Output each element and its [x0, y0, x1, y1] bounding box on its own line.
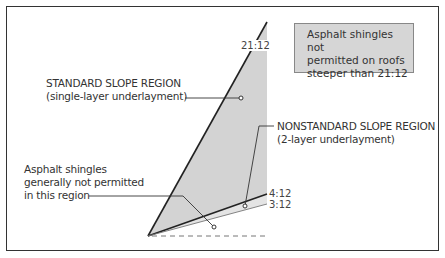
slope-label-21-12: 21:12 [240, 40, 271, 51]
low-region-line-3: in this region [24, 189, 144, 202]
low-region-label: Asphalt shingles generally not permitted… [24, 163, 144, 202]
low-region-line-1: Asphalt shingles [24, 163, 144, 176]
nonstandard-region-title: NONSTANDARD SLOPE REGION [277, 120, 435, 133]
low-region-line-2: generally not permitted [24, 176, 144, 189]
slope-label-3-12: 3:12 [268, 199, 292, 210]
nonstandard-region-subtitle: (2-layer underlayment) [277, 133, 435, 146]
note-line-1: Asphalt shingles not [307, 28, 413, 54]
note-line-2: permitted on roofs [307, 54, 413, 67]
standard-region-title: STANDARD SLOPE REGION [46, 77, 187, 90]
nonstandard-leader-dot [243, 204, 247, 208]
standard-region-subtitle: (single-layer underlayment) [46, 90, 187, 103]
low-region-leader-dot [212, 225, 216, 229]
nonstandard-region-label: NONSTANDARD SLOPE REGION (2-layer underl… [277, 120, 435, 146]
max-slope-note: Asphalt shingles not permitted on roofs … [294, 23, 414, 73]
standard-leader-dot [239, 96, 243, 100]
standard-region-label: STANDARD SLOPE REGION (single-layer unde… [46, 77, 187, 103]
note-line-3: steeper than 21:12 [307, 67, 413, 80]
slope-label-4-12: 4:12 [268, 188, 292, 199]
